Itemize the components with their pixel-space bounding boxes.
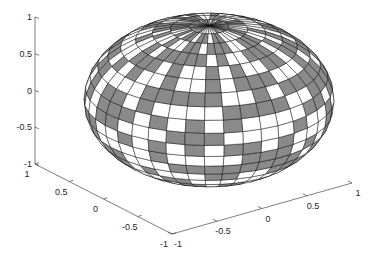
x-tick-mark xyxy=(213,219,217,221)
x-axis-ticks: -1-0.500.51 xyxy=(168,181,361,249)
surface-patch xyxy=(166,131,185,145)
y-tick-label: 0 xyxy=(93,204,98,214)
x-tick-mark xyxy=(348,181,352,183)
z-tick-label: 0.5 xyxy=(19,49,32,59)
surface-patch xyxy=(205,93,222,107)
surface-patch xyxy=(188,173,206,180)
y-tick-label: 0.5 xyxy=(55,187,68,197)
surface-patch xyxy=(186,106,205,120)
z-tick-mark xyxy=(35,17,39,19)
y-tick-label: -1 xyxy=(160,239,168,249)
y-tick-mark xyxy=(35,163,39,164)
surface-patch xyxy=(205,174,222,180)
surface-patch xyxy=(221,92,239,107)
x-tick-label: -1 xyxy=(174,239,182,249)
surface-patch xyxy=(204,120,223,133)
surface-patch xyxy=(166,143,185,156)
x-tick-mark xyxy=(258,207,262,209)
y-tick-label: 1 xyxy=(24,169,29,179)
y-tick-mark xyxy=(104,198,108,199)
x-tick-label: 1 xyxy=(355,188,360,198)
y-tick-mark xyxy=(69,180,73,181)
z-tick-mark xyxy=(35,127,39,129)
surface-patch xyxy=(205,79,221,93)
x-tick-label: 0.5 xyxy=(307,201,320,211)
surface-patch xyxy=(239,103,259,119)
surface-patch xyxy=(222,105,241,120)
x-tick-label: 0 xyxy=(265,214,270,224)
z-tick-label: 0 xyxy=(27,86,32,96)
y-tick-mark xyxy=(138,215,142,216)
z-tick-label: -0.5 xyxy=(16,122,32,132)
y-tick-label: -0.5 xyxy=(122,222,138,232)
surface-patch xyxy=(223,155,243,166)
z-tick-mark xyxy=(35,91,39,93)
surface-patch xyxy=(185,145,205,157)
surface-patch xyxy=(171,91,190,106)
surface-patch xyxy=(224,144,243,156)
ellipsoid-surface xyxy=(84,13,334,186)
surface-patch xyxy=(167,118,187,133)
surface-patch xyxy=(185,156,204,166)
surface-patch xyxy=(185,120,204,134)
surface-patch xyxy=(188,93,206,107)
surface-patch xyxy=(151,102,171,118)
surface-patch xyxy=(205,107,224,121)
surface-patch xyxy=(223,119,243,133)
surface-patch xyxy=(206,67,220,80)
surface-patch xyxy=(189,79,205,93)
surface-patch xyxy=(185,132,205,145)
x-tick-mark xyxy=(303,194,307,196)
surface-patch xyxy=(186,165,205,174)
surface-patch xyxy=(206,54,218,66)
figure-canvas: -1-0.500.51 -1-0.500.51 -1-0.500.51 xyxy=(0,0,379,261)
z-axis-ticks: -1-0.500.51 xyxy=(16,12,39,169)
surface-patch xyxy=(204,133,224,145)
surface-patch xyxy=(205,180,221,184)
surface-patch xyxy=(205,166,224,174)
surface-patch xyxy=(242,116,261,131)
surface-patch xyxy=(224,132,243,146)
z-tick-label: 1 xyxy=(27,12,32,22)
surface-patch xyxy=(204,145,224,156)
z-tick-mark xyxy=(35,54,39,56)
x-tick-label: -0.5 xyxy=(215,226,231,236)
x-tick-mark xyxy=(168,232,172,234)
z-tick-label: -1 xyxy=(24,159,32,169)
surface-patch xyxy=(204,156,223,166)
surface-patch xyxy=(168,104,187,119)
